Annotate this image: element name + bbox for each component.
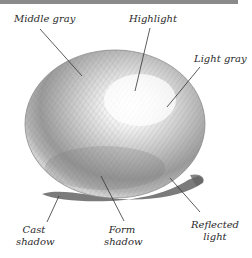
- label-reflected-light-line1: Reflected: [190, 219, 240, 231]
- label-form-shadow: Form shadow: [104, 224, 140, 248]
- label-reflected-light-line2: light: [190, 231, 240, 243]
- label-highlight: Highlight: [129, 13, 177, 25]
- label-reflected-light: Reflected light: [190, 219, 240, 243]
- label-cast-shadow-line2: shadow: [16, 236, 52, 248]
- label-middle-gray: Middle gray: [14, 13, 75, 25]
- label-form-shadow-line1: Form: [104, 224, 140, 236]
- highlight-area: [104, 74, 176, 126]
- label-cast-shadow-line1: Cast: [16, 224, 52, 236]
- label-cast-shadow: Cast shadow: [16, 224, 52, 248]
- leader-cast-shadow: [47, 196, 59, 222]
- label-form-shadow-line2: shadow: [104, 236, 140, 248]
- label-light-gray: Light gray: [194, 53, 247, 65]
